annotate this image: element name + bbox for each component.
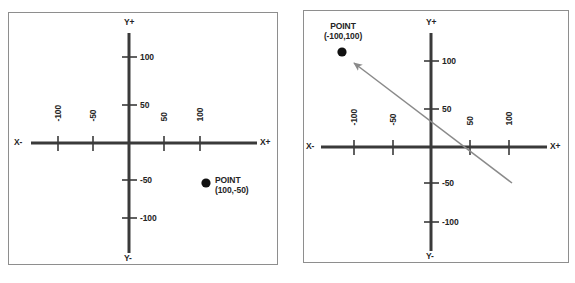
axes-svg-left — [9, 13, 279, 266]
data-point-marker — [201, 178, 210, 187]
y-tick-label-100: 100 — [140, 53, 154, 62]
pointer-arrow-line — [354, 63, 512, 183]
y-negative-axis-label: Y- — [124, 254, 132, 263]
axes-svg-right — [304, 11, 570, 264]
x-tick-label-50: 50 — [160, 112, 169, 121]
plot-area-left: X- X+ Y+ Y- 100 50 -50 -100 -100 -50 50 … — [9, 13, 277, 264]
scan-artifact-left — [14, 270, 16, 280]
x-tick-label--50: -50 — [389, 114, 398, 126]
x-positive-axis-label: X+ — [260, 138, 270, 147]
x-tick-label--100: -100 — [350, 109, 359, 126]
x-tick-label--50: -50 — [89, 110, 98, 122]
y-tick-label-50: 50 — [442, 105, 451, 114]
x-tick-label-50: 50 — [466, 116, 475, 125]
x-negative-axis-label: X- — [306, 142, 314, 151]
x-tick-label-100: 100 — [505, 112, 514, 126]
y-positive-axis-label: Y+ — [426, 18, 436, 27]
x-positive-axis-label: X+ — [550, 142, 560, 151]
scan-artifact-right — [300, 270, 302, 280]
y-tick-label--100: -100 — [442, 218, 459, 227]
point-annotation: POINT (100,-50) — [215, 176, 249, 195]
x-tick-label--100: -100 — [54, 105, 63, 122]
y-positive-axis-label: Y+ — [124, 18, 134, 27]
y-tick-label-100: 100 — [442, 57, 456, 66]
point-annotation-coords: (100,-50) — [215, 186, 249, 196]
y-negative-axis-label: Y- — [426, 252, 434, 261]
y-tick-label--50: -50 — [442, 179, 454, 188]
coordinate-plot-right-panel: X- X+ Y+ Y- 100 50 -50 -100 -100 -50 50 … — [303, 10, 569, 263]
y-tick-label--50: -50 — [140, 176, 152, 185]
x-negative-axis-label: X- — [14, 138, 22, 147]
point-annotation-coords: (-100,100) — [307, 32, 379, 42]
point-annotation: POINT (-100,100) — [307, 22, 379, 41]
plot-area-right: X- X+ Y+ Y- 100 50 -50 -100 -100 -50 50 … — [304, 11, 568, 262]
y-tick-label-50: 50 — [140, 101, 149, 110]
x-tick-label-100: 100 — [196, 108, 205, 122]
y-tick-label--100: -100 — [140, 214, 157, 223]
data-point-marker — [337, 47, 346, 56]
coordinate-plot-left-panel: X- X+ Y+ Y- 100 50 -50 -100 -100 -50 50 … — [8, 12, 278, 265]
